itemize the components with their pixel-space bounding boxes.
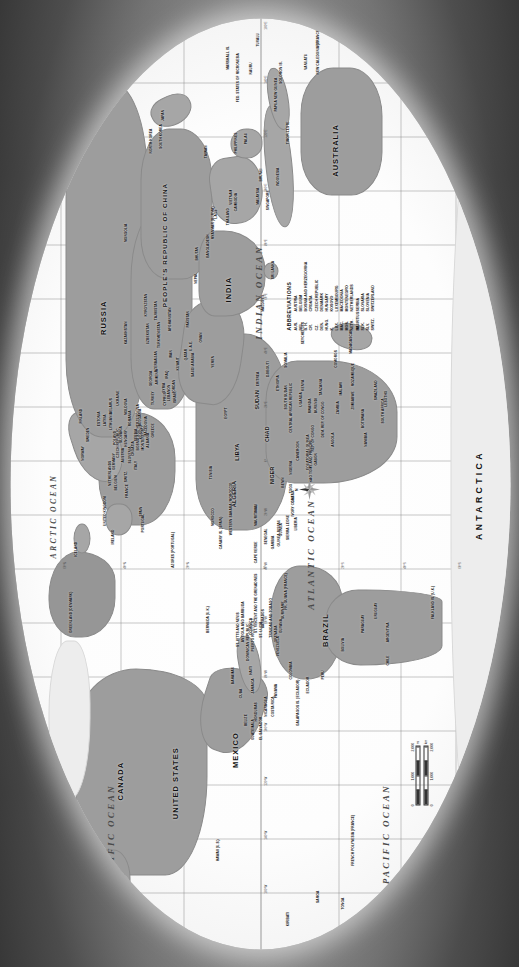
abbreviation-key: BEL. [298,311,303,330]
abbreviation-value: MONTENEGRO [344,258,349,311]
abbreviation-row: BEL.BELGIUM [298,258,303,330]
country-label-sudan: SUDAN [253,390,259,409]
country-label: ZAMBIA [335,401,339,414]
country-label: WESTERN SAHARA (MOROCCO) [228,482,232,535]
abbreviation-value: NETHERLANDS [349,258,354,311]
abbreviation-key: MON. [344,311,349,330]
ocean-label-arctic: ARCTIC OCEAN [48,473,57,558]
abbreviation-value: AUSTRIA [293,258,298,311]
abbreviation-key: SE. [355,311,360,330]
country-label: ANGOLA [330,432,334,446]
country-label: VIETNAM [228,189,232,204]
country-label: SWAZILAND [373,380,377,400]
country-label: OMAN [198,332,202,342]
country-label: KYRGYZSTAN [143,293,147,316]
country-label: EGYPT [223,407,227,418]
latitude-tick: 60°S [457,562,461,569]
scale-bar: 0 1,000 2,000 mi km 0 1,000 2 [410,745,434,805]
country-label: HAITI [248,666,252,675]
country-label: RWANDA [307,398,311,413]
longitude-tick: 160°W [263,884,267,893]
abbreviation-key: NETH. [349,311,354,330]
country-label: COLOMBIA [288,661,292,679]
abbreviation-key: SLV. [365,311,370,330]
country-label: MOZAMBIQUE [350,363,354,386]
country-label: INDONESIA [275,167,279,186]
abbreviation-row: AUS.AUSTRIA [293,258,298,330]
country-label: SRI LANKA [270,260,274,278]
country-label: SAUDI ARABIA [190,352,194,376]
country-label: DJIBOUTI [265,361,269,377]
country-label-libya: LIBYA [233,443,239,460]
country-label: ZIMBABWE [350,391,354,409]
country-label: NEW ZEALAND [380,35,384,60]
world-map-screenshot: PACIFIC OCEAN PACIFIC OCEAN ATLANTIC OCE… [0,0,519,967]
country-label: BRUNEI [258,168,262,181]
country-label: LATVIA [102,414,106,426]
country-label: BURUNDI [313,397,317,412]
abbreviation-row: CR.CROATIA [308,258,313,330]
country-label: CENTRAL AFRICAN REPUBLIC [288,382,292,432]
country-label: JAMAICA [250,678,254,693]
country-label: KAZAKHSTAN [123,321,127,344]
country-label: GREECE [150,423,154,437]
abbreviation-value: SLOVENIA [365,258,370,311]
country-label: LIBERIA [293,517,297,530]
country-label: IRAQ [164,370,168,378]
country-label: MADAGASCAR [348,329,352,353]
latitude-tick: 0° [262,565,266,568]
scale-miles-ticks: 0 1,000 2,000 [410,745,415,805]
continent-label-australia: AUSTRALIA [330,124,339,177]
abbreviation-value: DENMARK [319,258,324,311]
country-label: SWITZ. [123,470,127,481]
country-label: CYPRUS [162,391,166,405]
country-label: IRAN [168,350,172,358]
country-label: MARSHALL IS. [225,45,229,69]
landmass-greenland [48,551,115,637]
country-label: SINGAPORE [265,190,269,210]
abbreviation-key: HUNG. [324,311,329,330]
country-label: SYRIA [161,382,165,392]
country-label: TUNISIA [208,465,212,478]
ocean-label-atlantic: ATLANTIC OCEAN [305,498,315,609]
country-label: UZBEKISTAN [145,323,149,344]
country-label: MOLDOVA [123,398,127,415]
country-label: SLOVAKIA [118,426,122,443]
country-label: CUBA [238,688,242,698]
country-label-india: INDIA [223,276,232,302]
country-label: KUWAIT [175,357,179,370]
country-label: ST. KITTS AND NEVIS [235,612,239,647]
country-label: FRENCH POLYNESIA (FRANCE) [350,814,354,865]
country-label: BHUTAN [194,246,198,260]
country-label: SIERRA LEONE [285,514,289,539]
country-label: TAJIKISTAN [153,300,157,319]
abbreviation-value: MACEDONIA [339,258,344,311]
country-label: IRELAND [110,529,114,544]
country-label: NAMIBIA [363,432,367,446]
landmass-australia [300,67,382,195]
country-label: SAO TOME AND PRINCIPE [308,439,312,482]
country-label: MALI [253,503,257,511]
abbreviation-row: CZ.CZECH REPUBLIC [314,258,319,330]
country-label: CHILE [385,655,389,665]
country-label: CAPE VERDE [253,541,257,563]
country-label-canada: CANADA [115,761,124,800]
country-label: SWEDEN [85,427,89,442]
country-label: PARAGUAY [360,614,364,633]
abbreviation-row: SWITZ.SWITZERLAND [370,258,375,330]
country-label: DOMINICA [248,617,252,634]
country-label: GUYANA [278,618,282,632]
abbreviation-value: LUXEMBOURG [334,258,339,311]
abbreviation-row: SE.SERBIA [355,258,360,330]
country-label-russia: RUSSIA [98,300,107,335]
country-label: GABON [313,453,317,465]
country-label: PAKISTAN [185,310,189,327]
abbreviation-row: MON.MONTENEGRO [344,258,349,330]
country-label: CAMEROON [295,440,299,460]
abbreviations-title: ABBREVIATIONS [285,258,291,330]
abbreviations-table: AUS.AUSTRIABEL.BELGIUMB. H.BOSNIA AND HE… [293,258,375,330]
country-label: GUATEMALA [250,719,254,740]
country-label-china: PEOPLE'S REPUBLIC OF CHINA [160,182,167,306]
country-label-greenland: GREENLAND (DENMARK) [68,591,72,632]
country-label: SENEGAL [263,528,267,544]
